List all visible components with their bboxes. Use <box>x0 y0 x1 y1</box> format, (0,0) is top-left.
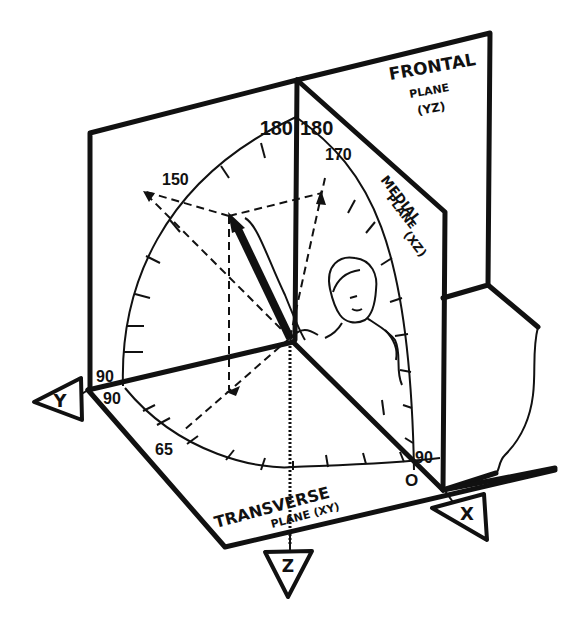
label-medial-90: 90 <box>415 449 433 466</box>
label-medial-180: 180 <box>300 117 333 139</box>
axis-y-marker: Y <box>34 378 88 420</box>
medial-label-line3: (XZ) <box>401 228 430 259</box>
label-transverse-90: 90 <box>103 390 121 407</box>
frontal-label-line2: PLANE <box>408 81 450 101</box>
label-origin: O <box>405 471 418 490</box>
medial-plane <box>293 80 445 490</box>
frontal-plane-label: FRONTAL PLANE (YZ) <box>387 49 477 118</box>
frontal-plane-right <box>297 33 538 490</box>
label-frontal-90: 90 <box>96 368 114 385</box>
axis-z-label: Z <box>282 556 294 576</box>
frontal-label-line3: (YZ) <box>416 99 446 118</box>
scale-labels: 180 180 150 170 90 90 65 90 O <box>96 117 433 490</box>
protractor-arcs <box>123 117 440 470</box>
label-150: 150 <box>162 171 189 188</box>
label-65: 65 <box>155 441 173 458</box>
label-170: 170 <box>325 146 352 163</box>
planes-diagram: Y X Z 180 180 150 170 90 90 65 90 O FRON… <box>0 0 562 627</box>
axis-y-label: Y <box>52 390 67 411</box>
axis-x-label: X <box>460 503 474 524</box>
medial-plane-label: MEDIAL PLANE (XZ) <box>378 173 430 260</box>
axis-z-marker: Z <box>265 530 312 597</box>
label-frontal-180: 180 <box>260 117 293 139</box>
